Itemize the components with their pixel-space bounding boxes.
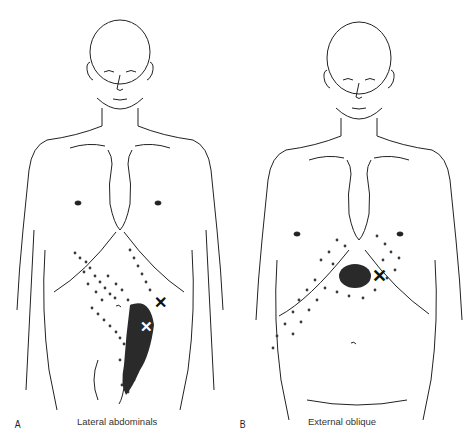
body-outline-a: ✕ ✕: [0, 0, 237, 442]
figure-external-oblique: ✕ B External oblique: [237, 0, 474, 442]
trigger-point-marker-b: ✕: [372, 266, 387, 286]
essential-zone-a: [122, 303, 154, 395]
trigger-point-marker-black-a: ✕: [154, 294, 167, 311]
referral-pattern-b: [272, 235, 401, 350]
panel-label-a: A: [15, 418, 21, 430]
trigger-point-marker-white-a: ✕: [140, 318, 153, 335]
caption-b: External oblique: [308, 416, 376, 427]
essential-zone-b: [339, 264, 371, 288]
figure-lateral-abdominals: ✕ ✕ A Lateral abdominals: [0, 0, 237, 442]
body-outline-b: ✕: [237, 0, 474, 442]
caption-a: Lateral abdominals: [77, 416, 157, 427]
panel-label-b: B: [240, 418, 246, 430]
